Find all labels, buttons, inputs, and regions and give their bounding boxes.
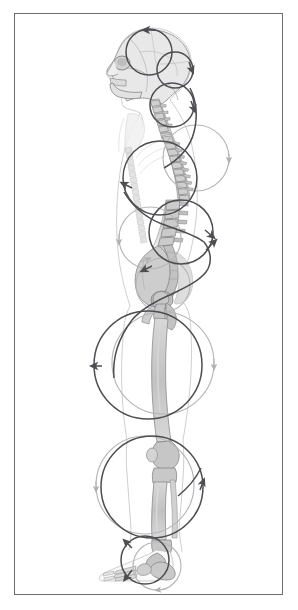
cervical-vertebrae [150,99,172,139]
anatomical-figure-root: Spiral / circular motion pattern along t… [0,0,298,610]
tibia-fibula-bone [152,468,178,564]
motion-circle-hip-thigh [94,311,202,419]
motion-circle-lower-shank [96,436,194,534]
skeleton-spiral-diagram [0,0,298,610]
skull-bone [107,30,190,104]
foot-bones [99,550,175,581]
